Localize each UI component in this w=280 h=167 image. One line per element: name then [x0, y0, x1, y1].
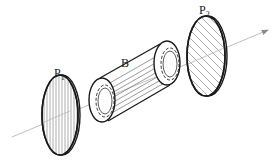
polarization-diagram: P1 B — [0, 0, 280, 167]
tube-b — [89, 41, 180, 122]
tube-left-ring — [89, 78, 115, 122]
label-p2: P2 — [199, 3, 210, 19]
polarizer-p1 — [42, 70, 80, 160]
label-b: B — [121, 56, 129, 70]
label-p1: P1 — [54, 66, 65, 82]
polarizer-p2 — [170, 0, 240, 136]
tube-right-ring — [154, 41, 180, 85]
